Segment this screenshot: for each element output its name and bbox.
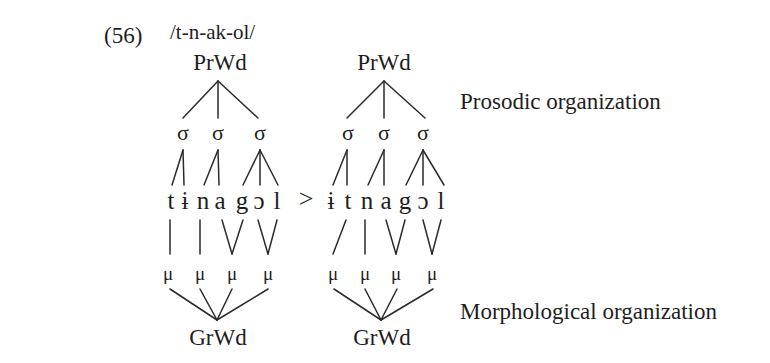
mora-node: μ bbox=[328, 264, 338, 283]
mora-node: μ bbox=[195, 264, 205, 283]
right-prwd-branches bbox=[347, 81, 425, 118]
mora-node: μ bbox=[227, 264, 237, 283]
left-mora-branches bbox=[170, 220, 277, 254]
prwd-node: PrWd bbox=[193, 51, 247, 74]
left-syllable-branches bbox=[172, 150, 278, 185]
segment: ɨ bbox=[328, 188, 335, 213]
syllable-node: σ bbox=[378, 122, 390, 144]
left-prwd-branches bbox=[183, 81, 258, 118]
segment: t bbox=[168, 188, 175, 213]
mora-node: μ bbox=[163, 264, 173, 283]
syllable-node: σ bbox=[417, 122, 429, 144]
segment: l bbox=[274, 188, 281, 213]
syllable-node: σ bbox=[212, 122, 224, 144]
segment: g bbox=[399, 188, 412, 213]
mora-node: μ bbox=[263, 264, 273, 283]
segment: t bbox=[345, 188, 352, 213]
prwd-node: PrWd bbox=[357, 51, 411, 74]
segment: ɔ bbox=[417, 188, 428, 213]
right-mora-branches bbox=[333, 220, 441, 254]
derivation-arrow: > bbox=[299, 186, 314, 212]
mora-node: μ bbox=[360, 264, 370, 283]
syllable-node: σ bbox=[254, 122, 266, 144]
segment: l bbox=[438, 188, 445, 213]
segment: ɨ bbox=[182, 188, 189, 213]
prosodic-organization-label: Prosodic organization bbox=[460, 90, 661, 113]
morphological-organization-label: Morphological organization bbox=[460, 300, 717, 323]
right-grwd-branches bbox=[334, 289, 433, 320]
grwd-node: GrWd bbox=[189, 326, 246, 349]
segment: g bbox=[236, 188, 249, 213]
mora-node: μ bbox=[427, 264, 437, 283]
syllable-node: σ bbox=[177, 122, 189, 144]
grwd-node: GrWd bbox=[353, 326, 410, 349]
syllable-node: σ bbox=[342, 122, 354, 144]
mora-node: μ bbox=[391, 264, 401, 283]
right-syllable-branches bbox=[333, 150, 444, 185]
segment: ɔ bbox=[253, 188, 264, 213]
left-grwd-branches bbox=[170, 289, 268, 320]
segment: n bbox=[361, 188, 374, 213]
segment: a bbox=[214, 188, 225, 213]
segment: a bbox=[380, 188, 391, 213]
segment: n bbox=[197, 188, 210, 213]
